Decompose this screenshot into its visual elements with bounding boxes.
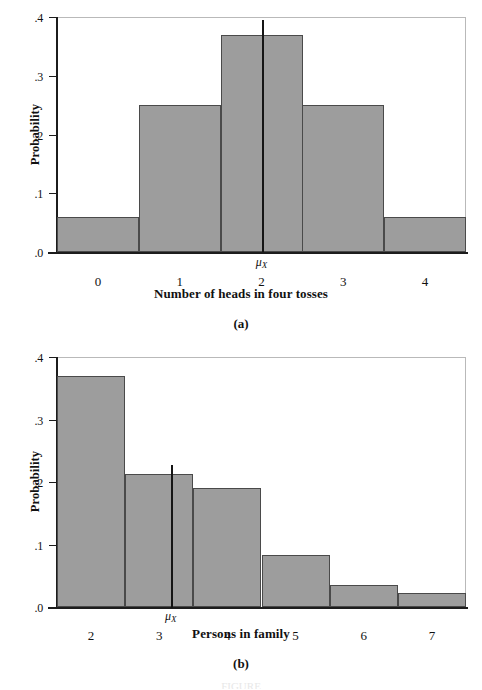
y-tick-label: .0 xyxy=(17,602,43,614)
y-tick-label: .2 xyxy=(17,477,43,489)
bar xyxy=(57,376,125,607)
mean-label: μX xyxy=(151,610,191,622)
figure-panel-a: Probability .4.3.2.1.0 01234 μX Number o… xyxy=(0,0,482,345)
bar xyxy=(57,217,139,252)
x-axis-b xyxy=(48,607,468,609)
y-tick-p2 xyxy=(49,482,56,483)
y-tick-label: .0 xyxy=(17,247,43,259)
y-tick-p0 xyxy=(49,252,56,253)
y-tick-label: .2 xyxy=(17,130,43,142)
bar xyxy=(398,593,466,607)
x-axis-a xyxy=(48,252,468,254)
y-tick-label: .3 xyxy=(17,71,43,83)
figure-footer-text: FIGURE xyxy=(0,680,482,689)
x-axis-label-b: Persons in family xyxy=(0,626,482,642)
y-tick-p2 xyxy=(49,135,56,136)
y-tick-label: .4 xyxy=(17,12,43,24)
bar xyxy=(302,105,384,252)
y-tick-p1 xyxy=(49,193,56,194)
bar xyxy=(139,105,221,252)
y-tick-p3 xyxy=(49,76,56,77)
mean-line xyxy=(262,20,264,252)
bar xyxy=(384,217,466,252)
bar xyxy=(193,488,261,607)
bar xyxy=(330,585,398,607)
y-tick-p3 xyxy=(49,420,56,421)
y-tick-p4 xyxy=(49,17,56,18)
y-tick-label: .3 xyxy=(17,415,43,427)
mean-label: μX xyxy=(242,256,282,268)
y-tick-p0 xyxy=(49,607,56,608)
figure-panel-b: Probability .4.3.2.1.0 234567 μX Persons… xyxy=(0,330,482,690)
panel-caption-b: (b) xyxy=(0,656,482,672)
x-axis-label-a: Number of heads in four tosses xyxy=(0,286,482,302)
y-tick-label: .1 xyxy=(17,188,43,200)
bar xyxy=(262,555,330,607)
y-tick-p4 xyxy=(49,357,56,358)
mean-line xyxy=(171,465,173,608)
bar xyxy=(125,474,193,607)
y-tick-p1 xyxy=(49,545,56,546)
y-tick-label: .1 xyxy=(17,540,43,552)
y-tick-label: .4 xyxy=(17,352,43,364)
